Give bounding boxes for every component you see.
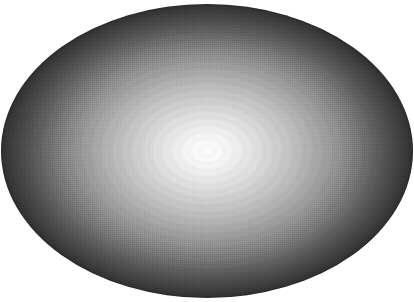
image-canvas — [0, 0, 414, 302]
dither-texture-overlay — [1, 4, 413, 298]
ellipse-edge-feather — [1, 4, 413, 298]
gradient-ellipse — [1, 4, 413, 298]
contour-banding-overlay — [1, 4, 413, 298]
